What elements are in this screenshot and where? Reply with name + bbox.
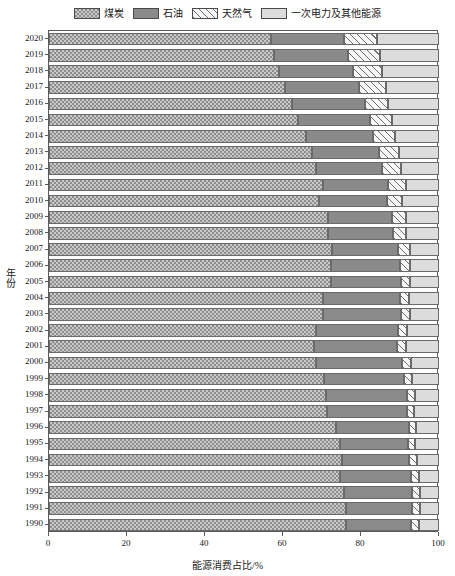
bar-segment-primary-electricity xyxy=(407,324,439,337)
bar-segment-primary-electricity xyxy=(395,130,439,143)
x-axis-tick-label: 40 xyxy=(184,539,224,548)
bar-segment-gas xyxy=(348,49,380,62)
bar-row xyxy=(49,227,437,240)
bar-segment-primary-electricity xyxy=(410,259,439,272)
stacked-bar-chart: 煤炭 石油 天然气 一次电力及其他能源 年份 20202019201820172… xyxy=(0,0,455,576)
bar-segment-coal xyxy=(49,519,346,532)
bar-segment-oil xyxy=(331,276,400,289)
bar-segment-gas xyxy=(409,421,416,434)
bar-segment-oil xyxy=(306,130,373,143)
bar-segment-coal xyxy=(49,502,346,515)
bar-segment-oil xyxy=(323,292,401,305)
bar-segment-coal xyxy=(49,227,328,240)
x-axis-tick-label: 100 xyxy=(418,539,455,548)
bar-segment-primary-electricity xyxy=(420,502,439,515)
bar-segment-coal xyxy=(49,243,332,256)
bar-segment-oil xyxy=(323,179,389,192)
x-axis-tick-label: 60 xyxy=(262,539,302,548)
legend-label-primary-electricity: 一次电力及其他能源 xyxy=(291,8,381,19)
bar-segment-primary-electricity xyxy=(380,49,439,62)
bar-segment-oil xyxy=(324,373,404,386)
bar-segment-gas xyxy=(370,114,393,127)
bar-segment-coal xyxy=(49,470,340,483)
bar-segment-gas xyxy=(401,276,410,289)
y-axis-tick-label: 1990 xyxy=(0,519,43,528)
bar-segment-primary-electricity xyxy=(416,421,439,434)
bar-row xyxy=(49,373,437,386)
bar-segment-primary-electricity xyxy=(409,292,439,305)
bar-segment-gas xyxy=(397,340,406,353)
bar-segment-primary-electricity xyxy=(419,470,439,483)
bar-segment-primary-electricity xyxy=(382,65,439,78)
bar-row xyxy=(49,324,437,337)
bar-segment-oil xyxy=(292,98,365,111)
y-axis-tick-label: 2005 xyxy=(0,277,43,286)
bar-row xyxy=(49,130,437,143)
x-axis-tick-label: 20 xyxy=(106,539,146,548)
x-axis-tick-mark xyxy=(48,532,49,536)
y-axis-tick-label: 1991 xyxy=(0,503,43,512)
bar-segment-oil xyxy=(314,340,397,353)
y-axis-tick-label: 2013 xyxy=(0,147,43,156)
y-axis-tick-label: 2010 xyxy=(0,196,43,205)
bar-segment-coal xyxy=(49,405,327,418)
bar-segment-coal xyxy=(49,438,340,451)
bar-segment-gas xyxy=(411,470,418,483)
bar-segment-gas xyxy=(353,65,383,78)
bar-segment-gas xyxy=(408,438,415,451)
bar-segment-oil xyxy=(285,81,359,94)
legend-swatch-oil-icon xyxy=(133,8,159,19)
y-axis-tick-label: 2007 xyxy=(0,244,43,253)
bar-row xyxy=(49,421,437,434)
bar-row xyxy=(49,195,437,208)
bar-segment-primary-electricity xyxy=(402,195,439,208)
y-axis-tick-label: 2009 xyxy=(0,212,43,221)
bar-segment-gas xyxy=(412,502,420,515)
bar-segment-gas xyxy=(400,259,411,272)
bar-segment-primary-electricity xyxy=(386,81,439,94)
bar-segment-oil xyxy=(331,259,399,272)
legend-entry-oil: 石油 xyxy=(133,8,183,19)
bar-segment-coal xyxy=(49,179,323,192)
bar-segment-coal xyxy=(49,454,342,467)
bar-segment-primary-electricity xyxy=(399,146,439,159)
bar-row xyxy=(49,162,437,175)
legend-label-oil: 石油 xyxy=(163,8,183,19)
legend-label-coal: 煤炭 xyxy=(104,8,124,19)
bar-segment-coal xyxy=(49,98,292,111)
x-axis-tick-mark xyxy=(438,532,439,536)
legend-label-gas: 天然气 xyxy=(222,8,252,19)
bar-segment-coal xyxy=(49,81,285,94)
bar-segment-coal xyxy=(49,211,328,224)
y-axis-tick-label: 1997 xyxy=(0,406,43,415)
legend-entry-primary-electricity: 一次电力及其他能源 xyxy=(261,8,381,19)
bar-row xyxy=(49,292,437,305)
bar-segment-coal xyxy=(49,33,271,46)
bar-row xyxy=(49,179,437,192)
bar-segment-oil xyxy=(279,65,353,78)
y-axis-tick-label: 2018 xyxy=(0,66,43,75)
y-axis-tick-label: 2006 xyxy=(0,260,43,269)
x-axis-tick-mark xyxy=(282,532,283,536)
legend-entry-coal: 煤炭 xyxy=(74,8,124,19)
bar-segment-coal xyxy=(49,65,279,78)
y-axis-tick-label: 2008 xyxy=(0,228,43,237)
bar-segment-primary-electricity xyxy=(411,357,439,370)
bar-segment-gas xyxy=(373,130,395,143)
bar-segment-oil xyxy=(274,49,348,62)
y-axis-tick-label: 1995 xyxy=(0,438,43,447)
bar-row xyxy=(49,486,437,499)
bar-segment-gas xyxy=(392,211,406,224)
bar-segment-oil xyxy=(316,324,398,337)
y-axis-tick-label: 2016 xyxy=(0,98,43,107)
bar-segment-primary-electricity xyxy=(406,227,439,240)
plot-area xyxy=(48,30,438,532)
bar-row xyxy=(49,357,437,370)
bar-segment-coal xyxy=(49,421,336,434)
bar-row xyxy=(49,454,437,467)
y-axis-tick-label: 2003 xyxy=(0,309,43,318)
bar-segment-primary-electricity xyxy=(406,211,439,224)
y-axis-tick-label: 2020 xyxy=(0,34,43,43)
bar-segment-oil xyxy=(328,211,392,224)
bar-segment-gas xyxy=(379,146,400,159)
